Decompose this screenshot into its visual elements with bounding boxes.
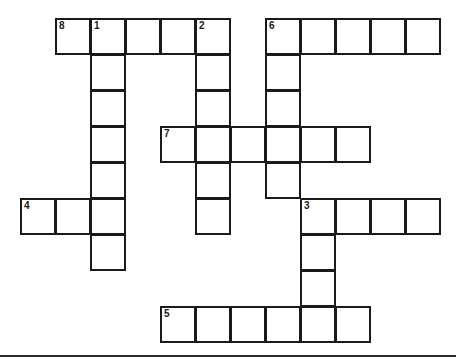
crossword-cell[interactable] [230,306,266,343]
crossword-cell[interactable] [195,162,231,199]
crossword-cell[interactable] [405,18,441,55]
clue-number: 2 [199,20,205,31]
clue-number: 3 [304,200,310,211]
crossword-cell[interactable] [90,126,126,163]
crossword-cell[interactable] [370,198,406,235]
crossword-cell[interactable] [300,270,336,307]
crossword-cell[interactable] [300,18,336,55]
crossword-cell[interactable]: 4 [20,198,56,235]
crossword-cell[interactable]: 2 [195,18,231,55]
clue-number: 1 [94,20,100,31]
crossword-cell[interactable] [125,18,161,55]
crossword-cell[interactable] [55,198,91,235]
crossword-cell[interactable] [300,234,336,271]
crossword-cell[interactable] [370,18,406,55]
crossword-cell[interactable] [265,306,301,343]
crossword-cell[interactable] [195,126,231,163]
crossword-cell[interactable]: 8 [55,18,91,55]
crossword-cell[interactable]: 7 [160,126,196,163]
crossword-cell[interactable] [90,198,126,235]
crossword-cell[interactable] [300,126,336,163]
crossword-cell[interactable] [90,54,126,91]
crossword-cell[interactable] [335,306,371,343]
clue-number: 6 [269,20,275,31]
crossword-cell[interactable] [265,90,301,127]
crossword-cell[interactable] [195,90,231,127]
clue-number: 5 [164,308,170,319]
crossword-cell[interactable] [335,126,371,163]
crossword-cell[interactable] [90,162,126,199]
clue-number: 7 [164,128,170,139]
crossword-cell[interactable]: 1 [90,18,126,55]
crossword-cell[interactable] [195,198,231,235]
crossword-cell[interactable] [300,306,336,343]
crossword-cell[interactable] [265,162,301,199]
crossword-grid: 81267435 [0,0,456,360]
crossword-cell[interactable] [90,234,126,271]
crossword-cell[interactable] [230,126,266,163]
crossword-cell[interactable] [335,18,371,55]
crossword-cell[interactable] [265,126,301,163]
crossword-cell[interactable] [90,90,126,127]
crossword-cell[interactable] [195,306,231,343]
crossword-cell[interactable] [160,18,196,55]
crossword-cell[interactable]: 3 [300,198,336,235]
crossword-cell[interactable] [335,198,371,235]
crossword-cell[interactable] [405,198,441,235]
clue-number: 4 [24,200,30,211]
crossword-cell[interactable]: 6 [265,18,301,55]
bottom-divider [0,355,456,357]
crossword-cell[interactable] [265,54,301,91]
clue-number: 8 [59,20,65,31]
crossword-cell[interactable] [195,54,231,91]
crossword-cell[interactable]: 5 [160,306,196,343]
